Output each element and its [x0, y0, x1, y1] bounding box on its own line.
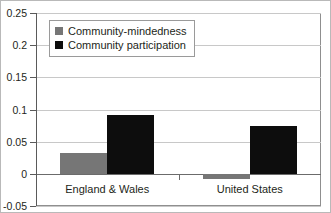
y-axis-tick	[30, 206, 36, 207]
gridline	[36, 77, 321, 78]
legend-entry-community-participation: Community participation	[55, 38, 187, 52]
legend-label-series-a: Community-mindedness	[68, 26, 187, 37]
bar	[250, 126, 297, 174]
y-axis-line	[36, 13, 37, 206]
y-axis-tick	[30, 142, 36, 143]
x-axis-category-label: United States	[217, 183, 283, 195]
y-axis-tick-labels: 0.250.20.150.10.050-0.05	[1, 1, 30, 213]
bar-chart: 0.250.20.150.10.050-0.05 England & Wales…	[0, 0, 331, 213]
y-axis-tick-label: -0.05	[3, 200, 27, 212]
bar	[107, 115, 154, 174]
gridline	[36, 206, 321, 207]
y-axis-tick	[30, 110, 36, 111]
legend-entry-community-mindedness: Community-mindedness	[55, 24, 187, 38]
y-axis-tick	[30, 77, 36, 78]
y-axis-tick	[30, 45, 36, 46]
y-axis-tick-label: 0.15	[7, 71, 27, 83]
gridline	[36, 110, 321, 111]
y-axis-tick-label: 0.25	[7, 7, 27, 19]
y-axis-tick	[30, 13, 36, 14]
y-axis-tick-label: 0	[21, 168, 27, 180]
y-axis-tick	[30, 174, 36, 175]
legend-swatch-icon-series-a	[55, 27, 63, 35]
y-axis-tick-label: 0.2	[12, 39, 27, 51]
legend-label-series-b: Community participation	[68, 40, 186, 51]
gridline	[36, 13, 321, 14]
bar	[203, 174, 250, 179]
legend-swatch-icon-series-b	[55, 41, 63, 49]
y-axis-tick-label: 0.05	[7, 136, 27, 148]
category-separator-tick	[179, 174, 180, 180]
x-axis-category-label: England & Wales	[65, 183, 149, 195]
chart-legend: Community-mindedness Community participa…	[49, 20, 195, 57]
bar	[60, 153, 107, 174]
y-axis-tick-label: 0.1	[12, 104, 27, 116]
